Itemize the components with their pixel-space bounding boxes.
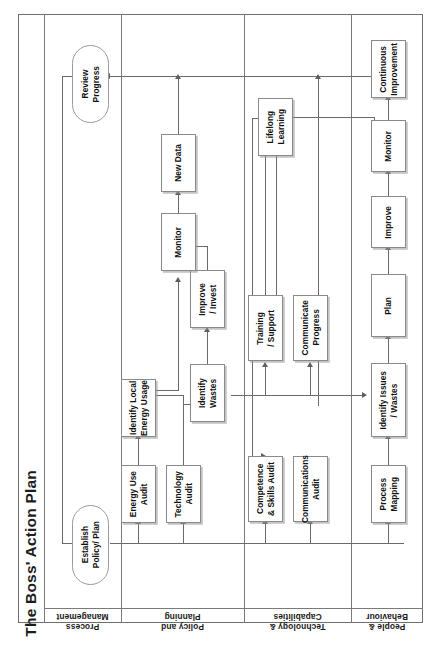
conn-techaudit-to-idlocal bbox=[152, 395, 184, 396]
node-technology-audit-label: Technology Audit bbox=[173, 471, 194, 517]
lane-label-technology: Technology & Capabilities bbox=[244, 599, 351, 645]
conn-comms-to-commprog bbox=[310, 365, 311, 395]
conn-bus-riser-comms bbox=[310, 523, 311, 544]
diagram-canvas: The Boss' Action Plan Policy and Plannin… bbox=[0, 0, 429, 660]
page-title-text: The Boss' Action Plan bbox=[22, 470, 40, 637]
node-identify-issues-wastes[interactable]: Identify Issues / Wastes bbox=[371, 363, 406, 437]
node-lifelong-learning-label: Lifelong Learning bbox=[265, 109, 286, 144]
lane-label-process: Process Management bbox=[44, 599, 121, 645]
conn-people-feedback-rail bbox=[252, 118, 253, 456]
conn-improve-to-monitorp bbox=[388, 172, 389, 196]
conn-bus-riser-tech bbox=[183, 523, 184, 544]
node-training-support[interactable]: Training / Support bbox=[248, 295, 283, 361]
conn-bus-riser-energy bbox=[138, 523, 139, 544]
lane-label-policy-text: Policy and Planning bbox=[161, 612, 204, 633]
node-improve-invest[interactable]: Improve / Invest bbox=[190, 270, 225, 328]
lane-label-people: People & Behaviour bbox=[351, 599, 423, 645]
node-competence-skills-audit[interactable]: Competence & Skills Audit bbox=[248, 456, 283, 522]
node-improve-process[interactable]: Improve bbox=[371, 196, 406, 248]
node-competence-skills-audit-label: Competence & Skills Audit bbox=[255, 462, 276, 516]
node-continuous-improvement-label: Continuous Improvement bbox=[378, 43, 399, 96]
conn-energy-to-idlocal bbox=[138, 437, 139, 465]
node-communications-audit-label: Communications Audit bbox=[300, 455, 321, 523]
node-identify-wastes[interactable]: Identify Wastes bbox=[190, 364, 225, 422]
node-improve-process-label: Improve bbox=[383, 206, 394, 239]
node-identify-issues-wastes-label: Identify Issues / Wastes bbox=[378, 371, 399, 429]
node-plan[interactable]: Plan bbox=[371, 274, 406, 337]
conn-cross-lane-bus bbox=[231, 395, 364, 396]
arrow-comms-commprog bbox=[307, 362, 313, 367]
node-identify-local-energy-usage[interactable]: Identify Local Energy Usage bbox=[121, 379, 156, 437]
arrow-idlocal-monitor bbox=[175, 277, 181, 282]
node-plan-label: Plan bbox=[383, 297, 394, 315]
conn-wastes-to-improve bbox=[207, 330, 208, 364]
conn-top-bus bbox=[108, 76, 393, 77]
conn-plan-to-improve bbox=[388, 248, 389, 274]
node-communications-audit[interactable]: Communications Audit bbox=[293, 456, 328, 522]
conn-techaudit-riser bbox=[183, 395, 184, 465]
conn-bus-riser-comp bbox=[265, 523, 266, 544]
conn-monitor-to-lifelong bbox=[291, 117, 375, 118]
lane-label-technology-text: Technology & Capabilities bbox=[270, 612, 326, 633]
conn-review-loop-top bbox=[62, 76, 72, 77]
node-establish-policy-plan-label: Establish Policy/ Plan bbox=[80, 521, 101, 568]
arrow-comp-training bbox=[262, 362, 268, 367]
node-review-progress-label: Review Progress bbox=[80, 66, 101, 102]
conn-idlocal-riser bbox=[178, 280, 179, 390]
node-process-mapping[interactable]: Process Mapping bbox=[371, 465, 406, 523]
node-new-data[interactable]: New Data bbox=[161, 134, 196, 192]
lane-divider-people bbox=[351, 14, 352, 623]
lane-label-people-text: People & Behaviour bbox=[366, 612, 408, 633]
node-process-mapping-label: Process Mapping bbox=[378, 477, 399, 511]
page-title: The Boss' Action Plan bbox=[19, 463, 43, 643]
node-communicate-progress[interactable]: Communicate Progress bbox=[293, 295, 328, 361]
node-training-support-label: Training / Support bbox=[255, 310, 276, 347]
node-monitor-technology[interactable]: Monitor bbox=[161, 213, 196, 271]
node-new-data-label: New Data bbox=[173, 144, 184, 182]
lane-divider-technology bbox=[244, 14, 245, 623]
lane-label-policy: Policy and Planning bbox=[121, 599, 244, 645]
conn-bus-riser-procmap bbox=[388, 523, 389, 544]
node-establish-policy-plan[interactable]: Establish Policy/ Plan bbox=[72, 505, 109, 585]
lane-label-process-text: Process Management bbox=[56, 612, 108, 633]
node-technology-audit[interactable]: Technology Audit bbox=[166, 465, 201, 523]
conn-issues-to-plan bbox=[388, 337, 389, 363]
node-lifelong-learning[interactable]: Lifelong Learning bbox=[258, 98, 293, 156]
lane-divider-policy bbox=[121, 14, 122, 623]
conn-procmap-to-issues bbox=[388, 437, 389, 465]
node-identify-wastes-label: Identify Wastes bbox=[197, 378, 218, 408]
node-energy-use-audit-label: Energy Use Audit bbox=[128, 471, 149, 517]
node-energy-use-audit[interactable]: Energy Use Audit bbox=[121, 465, 156, 523]
conn-monitorp-to-contimp bbox=[388, 98, 389, 120]
conn-review-loop-vertical bbox=[62, 76, 63, 544]
node-monitor-technology-label: Monitor bbox=[173, 227, 184, 258]
lane-divider-title bbox=[44, 14, 45, 623]
conn-improve-riser bbox=[207, 246, 208, 270]
node-monitor-process-label: Monitor bbox=[383, 131, 394, 162]
node-review-progress[interactable]: Review Progress bbox=[72, 45, 109, 123]
conn-idlocal-to-riser bbox=[152, 390, 179, 391]
arrow-newdata-bus bbox=[175, 74, 181, 79]
node-improve-invest-label: Improve / Invest bbox=[197, 283, 218, 316]
conn-comp-to-training bbox=[265, 365, 266, 395]
arrow-cross-lane-process bbox=[362, 392, 367, 398]
node-communicate-progress-label: Communicate Progress bbox=[300, 300, 321, 355]
node-identify-local-energy-usage-label: Identify Local Energy Usage bbox=[128, 380, 149, 436]
conn-monitor-to-newdata bbox=[178, 193, 179, 213]
arrow-people-bus bbox=[315, 74, 321, 79]
node-monitor-process[interactable]: Monitor bbox=[371, 120, 406, 172]
conn-newdata-to-bus bbox=[178, 76, 179, 134]
conn-establish-bus bbox=[110, 543, 404, 544]
node-continuous-improvement[interactable]: Continuous Improvement bbox=[371, 40, 406, 98]
conn-training-riser bbox=[265, 140, 266, 295]
